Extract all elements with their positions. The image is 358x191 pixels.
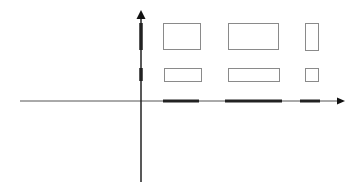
rect-top-middle — [229, 24, 279, 50]
y-axis-arrow-icon — [137, 10, 146, 19]
rect-bottom-left — [165, 69, 202, 82]
rect-bottom-right — [306, 69, 319, 82]
rect-top-right — [306, 24, 319, 51]
rect-top-left — [164, 24, 201, 50]
rect-bottom-middle — [229, 69, 280, 82]
diagram-canvas — [0, 0, 358, 191]
rectangles — [164, 24, 319, 82]
x-axis-arrow-icon — [337, 98, 345, 105]
